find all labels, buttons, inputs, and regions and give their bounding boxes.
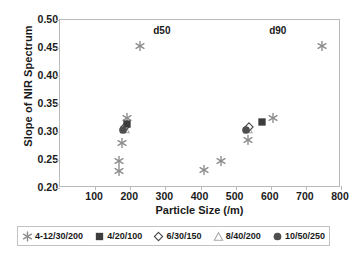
x-axis-title: Particle Size (/m) xyxy=(59,204,340,216)
legend-marker-filled-circle-icon xyxy=(272,231,283,242)
y-tick-label: 0.50 xyxy=(28,14,58,24)
plot-area: d50d90 xyxy=(59,19,340,187)
data-point-star xyxy=(267,113,278,124)
legend-label: 8/40/200 xyxy=(226,231,261,241)
y-tick-mark xyxy=(56,76,60,77)
x-tick-label: 100 xyxy=(74,190,114,202)
legend-item[interactable]: 6/30/150 xyxy=(153,231,201,242)
legend-marker-open-diamond-icon xyxy=(153,231,164,242)
legend-marker-star-icon xyxy=(22,231,33,242)
legend-label: 6/30/150 xyxy=(166,231,201,241)
y-tick-mark xyxy=(56,104,60,105)
y-tick-label: 0.30 xyxy=(28,126,58,136)
y-tick-mark xyxy=(56,20,60,21)
x-tick-label: 700 xyxy=(285,190,325,202)
legend-item[interactable]: 4-12/30/200 xyxy=(22,231,83,242)
legend-marker-filled-square-icon xyxy=(94,231,105,242)
data-point-star xyxy=(199,165,210,176)
legend-label: 4/20/100 xyxy=(107,231,142,241)
data-point-star xyxy=(135,41,146,52)
plot-annotation: d90 xyxy=(269,24,286,35)
chart-legend: 4-12/30/2004/20/1006/30/1508/40/20010/50… xyxy=(17,226,330,246)
y-tick-label: 0.25 xyxy=(28,154,58,164)
x-tick-label: 600 xyxy=(250,190,290,202)
data-point-star xyxy=(116,137,127,148)
x-tick-label: 300 xyxy=(144,190,184,202)
y-axis-tick-labels: 0.200.250.300.350.400.450.50 xyxy=(28,0,58,261)
y-tick-label: 0.40 xyxy=(28,70,58,80)
legend-label: 4-12/30/200 xyxy=(35,231,83,241)
legend-marker-open-triangle-icon xyxy=(213,231,224,242)
x-tick-label: 800 xyxy=(320,190,353,202)
data-point-star xyxy=(215,155,226,166)
data-point-filled-square xyxy=(256,117,267,128)
x-tick-label: 200 xyxy=(109,190,149,202)
y-tick-mark xyxy=(56,48,60,49)
data-point-filled-circle xyxy=(118,125,129,136)
plot-annotation: d50 xyxy=(153,24,170,35)
y-tick-label: 0.35 xyxy=(28,98,58,108)
y-tick-mark xyxy=(56,132,60,133)
x-tick-label: 500 xyxy=(215,190,255,202)
legend-item[interactable]: 8/40/200 xyxy=(213,231,261,242)
y-tick-mark xyxy=(56,160,60,161)
y-tick-label: 0.45 xyxy=(28,42,58,52)
y-tick-mark xyxy=(56,188,60,189)
data-point-star xyxy=(243,135,254,146)
x-tick-label: 400 xyxy=(180,190,220,202)
x-axis-tick-labels: 100200300400500600700800 xyxy=(0,190,347,204)
data-point-star xyxy=(316,41,327,52)
legend-label: 10/50/250 xyxy=(285,231,325,241)
data-point-filled-circle xyxy=(241,124,252,135)
data-point-star xyxy=(114,165,125,176)
legend-item[interactable]: 4/20/100 xyxy=(94,231,142,242)
legend-item[interactable]: 10/50/250 xyxy=(272,231,325,242)
